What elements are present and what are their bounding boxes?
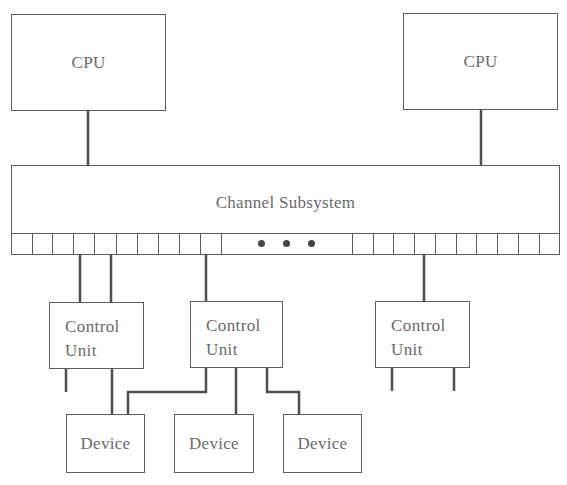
subchannel-divider: [476, 234, 477, 254]
control-unit-label-line1: Control: [65, 315, 120, 339]
subchannel-divider: [352, 234, 353, 254]
cpu-label: CPU: [404, 52, 557, 72]
cpu-box: CPU: [403, 13, 558, 110]
subchannel-divider: [200, 234, 201, 254]
control-unit-label: Control Unit: [65, 315, 120, 363]
device-box: Device: [66, 414, 145, 473]
cpu-box: CPU: [11, 14, 166, 111]
subchannel-divider: [94, 234, 95, 254]
control-unit-label-line1: Control: [391, 314, 446, 338]
subchannel-divider: [539, 234, 540, 254]
subchannel-divider: [373, 234, 374, 254]
control-unit-box: Control Unit: [375, 301, 470, 368]
control-unit-box: Control Unit: [190, 301, 283, 368]
control-unit-box: Control Unit: [49, 302, 144, 369]
io-architecture-diagram: CPU CPU Channel Subsystem Control Unit C…: [0, 0, 567, 485]
subchannel-divider: [137, 234, 138, 254]
device-label: Device: [67, 434, 144, 454]
cu2-device1: [128, 367, 206, 414]
subchannel-divider: [179, 234, 180, 254]
device-label: Device: [284, 434, 361, 454]
subchannel-divider: [456, 234, 457, 254]
device-box: Device: [174, 414, 254, 473]
control-unit-label: Control Unit: [206, 314, 261, 362]
subchannel-divider: [158, 234, 159, 254]
subchannel-divider: [221, 234, 222, 254]
subchannel-divider: [393, 234, 394, 254]
ellipsis-dot: [283, 240, 290, 247]
subchannel-divider: [414, 234, 415, 254]
cu2-device3: [267, 367, 299, 414]
control-unit-label-line2: Unit: [206, 338, 261, 362]
control-unit-label: Control Unit: [391, 314, 446, 362]
subchannel-divider: [116, 234, 117, 254]
ellipsis-dot: [308, 240, 315, 247]
control-unit-label-line1: Control: [206, 314, 261, 338]
channel-subsystem-label: Channel Subsystem: [12, 193, 559, 213]
subchannel-divider: [73, 234, 74, 254]
control-unit-label-line2: Unit: [65, 339, 120, 363]
subchannel-divider: [518, 234, 519, 254]
control-unit-label-line2: Unit: [391, 338, 446, 362]
subchannel-divider: [497, 234, 498, 254]
cpu-label: CPU: [12, 53, 165, 73]
subchannel-divider: [52, 234, 53, 254]
ellipsis-dot: [258, 240, 265, 247]
subchannel-divider: [32, 234, 33, 254]
device-label: Device: [175, 434, 253, 454]
device-box: Device: [283, 414, 362, 473]
subchannel-divider: [435, 234, 436, 254]
